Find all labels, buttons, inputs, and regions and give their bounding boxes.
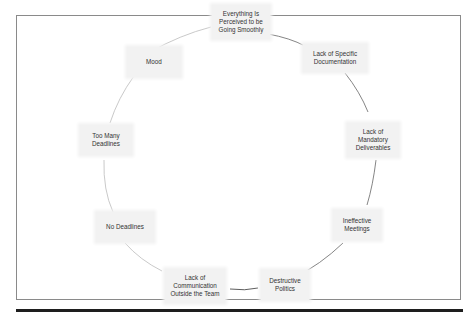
- connector-5-6: [230, 288, 258, 290]
- node-lack-specific-documentation: Lack of Specific Documentation: [303, 44, 367, 72]
- connector-2-3: [345, 73, 368, 112]
- node-no-deadlines: No Deadlines: [96, 212, 154, 242]
- node-destructive-politics: Destructive Politics: [261, 270, 309, 300]
- connector-8-9: [110, 76, 134, 123]
- connector-1-2: [268, 34, 305, 46]
- connector-6-7: [125, 243, 162, 271]
- cycle-connectors: [0, 0, 474, 318]
- node-mood: Mood: [127, 47, 181, 77]
- node-ineffective-meetings: Ineffective Meetings: [333, 210, 381, 240]
- node-everything-perceived-smooth: Everything Is Perceived to be Going Smoo…: [212, 5, 270, 39]
- connector-7-8: [104, 160, 113, 212]
- node-lack-communication-outside-team: Lack of Communication Outside the Team: [165, 269, 225, 303]
- node-lack-mandatory-deliverables: Lack of Mandatory Deliverables: [347, 123, 399, 157]
- node-too-many-deadlines: Too Many Deadlines: [80, 125, 132, 155]
- connector-3-4: [367, 160, 376, 205]
- bottom-rule: [16, 309, 463, 312]
